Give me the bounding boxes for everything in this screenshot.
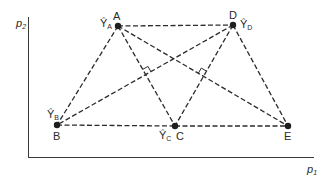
edges <box>57 25 288 126</box>
point-label-e: E <box>284 130 291 142</box>
edge-d-c <box>175 25 233 126</box>
edge-a-e <box>118 26 288 126</box>
point-c <box>172 123 178 129</box>
point-b <box>54 122 60 128</box>
point-a <box>115 23 121 29</box>
edge-a-c <box>118 26 175 126</box>
diagram-canvas: p2 p1 A ŶA D ŶD ŶB B ŶC C E <box>0 0 325 179</box>
estimate-label-c: ŶC <box>159 129 171 142</box>
y-axis-label: p2 <box>15 17 26 30</box>
edge-a-d <box>118 25 233 26</box>
point-label-d: D <box>229 9 237 21</box>
edge-d-b <box>57 25 233 125</box>
point-label-c: C <box>176 130 184 142</box>
edge-a-b <box>57 26 118 125</box>
x-axis-label: p1 <box>306 163 317 176</box>
edge-b-c <box>57 125 175 126</box>
point-label-a: A <box>113 10 121 22</box>
point-d <box>230 22 236 28</box>
axes: p2 p1 <box>15 17 317 176</box>
point-e <box>285 123 291 129</box>
points <box>54 22 291 129</box>
point-label-b: B <box>53 130 60 142</box>
right-angle-marker <box>143 66 151 71</box>
point-labels: A ŶA D ŶD ŶB B ŶC C E <box>47 9 291 142</box>
estimate-label-d: ŶD <box>240 18 252 31</box>
edge-d-e <box>233 25 288 126</box>
estimate-label-a: ŶA <box>100 17 112 30</box>
estimate-label-b: ŶB <box>47 108 59 121</box>
